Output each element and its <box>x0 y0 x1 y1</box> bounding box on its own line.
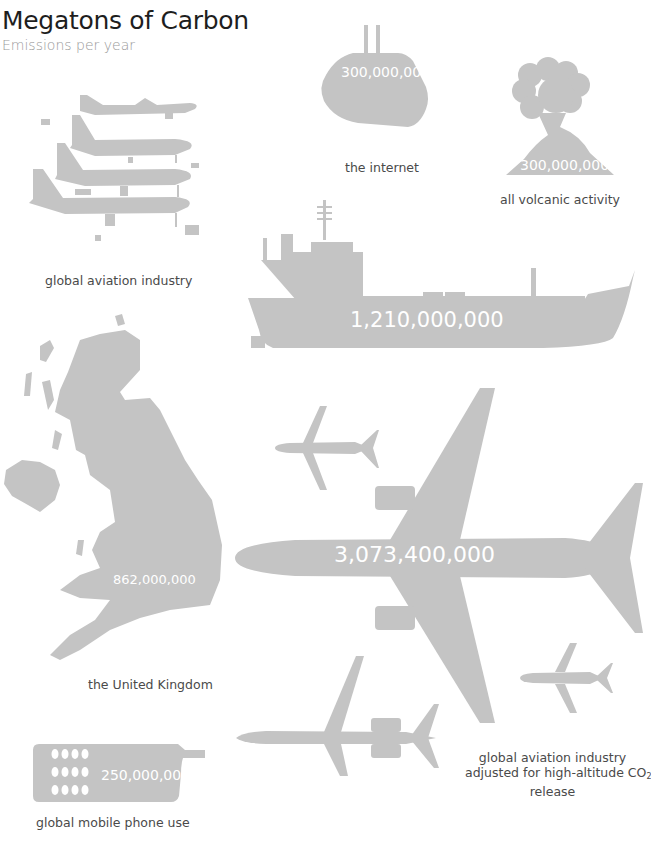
internet-value: 300,000,000 <box>341 64 430 80</box>
aviation-label: global aviation industry <box>45 273 192 288</box>
router-icon <box>318 25 430 145</box>
uk-map-icon <box>0 300 230 670</box>
aviation-adjusted-label: global aviation industry adjusted for hi… <box>465 750 640 799</box>
volcano-value: 300,000,000 <box>520 157 609 173</box>
aviation-adjusted-value: 3,073,400,000 <box>334 542 495 567</box>
aviation-adjusted-label-line1: global aviation industry <box>465 750 640 765</box>
mobile-label: global mobile phone use <box>36 815 190 830</box>
page-title: Megatons of Carbon <box>2 6 249 35</box>
airplane-side-icon <box>236 656 446 776</box>
shipping-value: 1,210,000,000 <box>350 308 504 332</box>
airplanes-stack-icon <box>25 85 210 245</box>
uk-value: 862,000,000 <box>113 572 196 587</box>
page-subtitle: Emissions per year <box>2 37 135 53</box>
uk-label: the United Kingdom <box>88 677 213 692</box>
internet-label: the internet <box>345 160 419 175</box>
aviation-adjusted-label-line3: release <box>465 784 640 799</box>
aviation-adjusted-label-line2: adjusted for high-altitude CO2 <box>465 765 640 784</box>
mobile-value: 250,000,000 <box>101 767 190 783</box>
